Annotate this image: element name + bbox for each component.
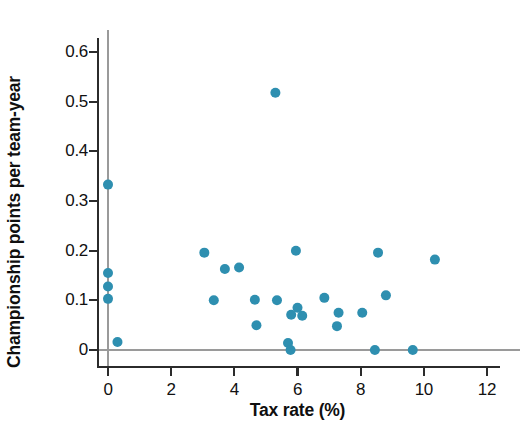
data-point (103, 268, 113, 278)
data-point (334, 308, 344, 318)
x-tick-label: 12 (478, 380, 496, 400)
data-point (250, 295, 260, 305)
y-tick-label: 0.6 (30, 42, 88, 62)
data-point (199, 248, 209, 258)
x-tick-label: 6 (293, 380, 302, 400)
scatter-plot-figure: Championship points per team-year Tax ra… (0, 0, 526, 444)
data-point (251, 320, 261, 330)
data-point (430, 255, 440, 265)
data-point (370, 345, 380, 355)
data-point (297, 311, 307, 321)
data-point (291, 246, 301, 256)
x-tick-label: 0 (103, 380, 112, 400)
reference-lines (98, 30, 520, 367)
data-point (234, 263, 244, 273)
y-tick-label: 0.5 (30, 92, 88, 112)
data-point (332, 321, 342, 331)
y-tick-label: 0.3 (30, 191, 88, 211)
plot-canvas (0, 0, 526, 444)
x-tick-label: 8 (356, 380, 365, 400)
data-points (103, 88, 440, 355)
y-tick-label: 0.2 (30, 241, 88, 261)
data-point (286, 345, 296, 355)
data-point (357, 308, 367, 318)
y-tick-label: 0.4 (30, 141, 88, 161)
axis-ticks (89, 52, 487, 376)
y-tick-label: 0 (30, 340, 88, 360)
data-point (220, 264, 230, 274)
data-point (408, 345, 418, 355)
data-point (270, 88, 280, 98)
data-point (103, 294, 113, 304)
data-point (112, 337, 122, 347)
data-point (272, 295, 282, 305)
data-point (373, 248, 383, 258)
x-tick-label: 10 (415, 380, 433, 400)
data-point (319, 293, 329, 303)
data-point (103, 281, 113, 291)
data-point (103, 180, 113, 190)
data-point (381, 290, 391, 300)
plot-area: 00.10.20.30.40.50.6024681012 (0, 0, 526, 444)
x-tick-label: 4 (230, 380, 239, 400)
y-tick-label: 0.1 (30, 290, 88, 310)
data-point (209, 295, 219, 305)
x-tick-label: 2 (167, 380, 176, 400)
